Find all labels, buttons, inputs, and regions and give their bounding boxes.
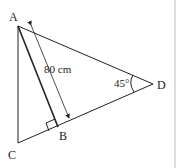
label-d: D — [157, 78, 166, 92]
segment-cd — [18, 84, 153, 143]
angle-arc-d — [131, 75, 134, 92]
label-a: A — [9, 10, 18, 24]
geometry-diagram: A B C D 80 cm 45° — [0, 0, 176, 168]
length-ab-label: 80 cm — [44, 63, 72, 75]
label-c: C — [8, 148, 16, 162]
label-b: B — [59, 129, 67, 143]
angle-d-label: 45° — [114, 77, 129, 89]
